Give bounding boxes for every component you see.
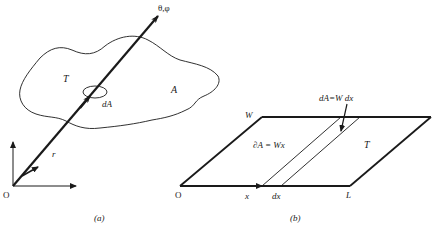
panel-b: [180, 104, 431, 186]
surface-label-a: T: [63, 74, 69, 84]
length-label: L: [346, 191, 351, 200]
strip-right-line: [281, 117, 360, 186]
partial-area-label: ∂A = Wx: [253, 141, 285, 150]
origin-label-b: O: [175, 191, 182, 200]
caption-a: (a): [94, 214, 105, 223]
direction-label: θ,φ: [158, 4, 170, 13]
x-label: x: [245, 192, 249, 201]
strip-left-line: [262, 117, 341, 186]
panel-a: [13, 16, 219, 186]
area-label: A: [171, 85, 177, 95]
origin-label-a: O: [3, 191, 10, 200]
parallelogram-left-edge: [180, 117, 262, 186]
parallelogram-right-edge: [350, 117, 431, 186]
dx-label: dx: [272, 192, 281, 201]
area-element-label: dA: [102, 100, 112, 109]
strip-area-label: dA=W dx: [319, 94, 353, 103]
width-label: W: [245, 111, 253, 120]
radius-label: r: [52, 150, 56, 159]
surface-region-outline: [20, 36, 219, 128]
surface-label-b: T: [364, 140, 370, 150]
caption-b: (b): [290, 214, 301, 223]
diagram-svg: [0, 0, 436, 231]
area-element-ellipse: [83, 86, 107, 98]
mid-vector-arrowhead: [80, 96, 90, 108]
figure-canvas: θ,φ T A dA r O (a) dA=W dx W ∂A = Wx T O…: [0, 0, 436, 231]
